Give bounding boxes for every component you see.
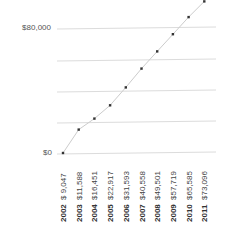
gridline-3 — [57, 59, 216, 61]
data-point-2003 — [78, 128, 80, 130]
y-tick-label-max: $80,000 — [22, 23, 51, 32]
data-series — [62, 0, 206, 154]
x-tick-value: $31,593 — [122, 171, 131, 200]
data-point-2007 — [140, 67, 142, 69]
gridline-2 — [57, 90, 216, 92]
x-tick-year: 2008 — [153, 204, 162, 222]
x-tick-value: $73,096 — [200, 171, 209, 200]
x-tick-value: $22,917 — [106, 171, 115, 200]
data-point-2005 — [109, 104, 111, 106]
x-tick-value: $11,588 — [75, 171, 84, 200]
data-point-2010 — [187, 16, 189, 18]
x-tick-year: 2009 — [169, 204, 178, 222]
line-chart: $80,000 $0 2002$ 9,0472003$11,5882004$16… — [0, 0, 227, 231]
series-line — [63, 1, 204, 153]
x-tick-value: $16,451 — [90, 171, 99, 200]
data-point-2009 — [172, 33, 174, 35]
x-tick-year: 2011 — [200, 204, 209, 222]
data-point-2004 — [93, 117, 95, 119]
x-tick-value: $40,558 — [138, 171, 147, 200]
x-tick-value: $49,501 — [153, 171, 162, 200]
gridline-0 — [57, 152, 216, 154]
x-tick-value: $65,585 — [185, 171, 194, 200]
data-point-2011 — [203, 0, 205, 2]
data-point-2006 — [125, 86, 127, 88]
y-tick-label-zero: $0 — [43, 148, 52, 157]
x-tick-year: 2003 — [75, 204, 84, 222]
x-tick-value: $57,719 — [169, 171, 178, 200]
x-axis-labels: 2002$ 9,0472003$11,5882004$16,4512005$22… — [59, 171, 209, 222]
x-tick-value: $ 9,047 — [59, 173, 68, 200]
data-point-2008 — [156, 50, 158, 52]
x-tick-year: 2006 — [122, 204, 131, 222]
x-tick-year: 2010 — [185, 204, 194, 222]
x-tick-year: 2005 — [106, 204, 115, 222]
x-tick-year: 2004 — [90, 204, 99, 222]
x-tick-year: 2007 — [138, 204, 147, 222]
gridline-1 — [57, 121, 216, 123]
data-point-2002 — [62, 152, 64, 154]
gridline-80000 — [57, 27, 216, 29]
x-tick-year: 2002 — [59, 204, 68, 222]
